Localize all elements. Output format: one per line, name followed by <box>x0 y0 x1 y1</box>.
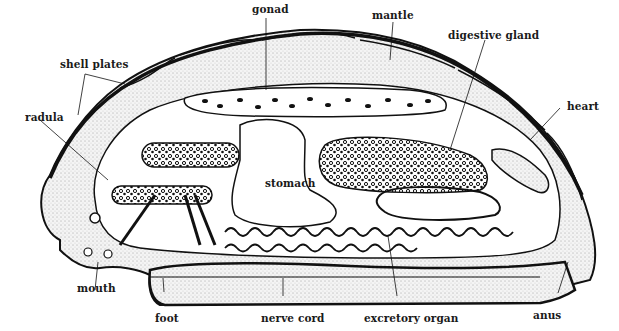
label-excretory-organ: excretory organ <box>364 313 459 324</box>
label-mantle: mantle <box>372 10 414 21</box>
label-mouth: mouth <box>77 283 116 294</box>
chiton-anatomy-diagram: gonad mantle digestive gland shell plate… <box>0 0 619 331</box>
label-stomach: stomach <box>265 178 315 189</box>
label-radula: radula <box>25 112 64 123</box>
label-shell-plates: shell plates <box>60 59 129 70</box>
gonad <box>184 88 446 117</box>
label-gonad: gonad <box>252 4 289 15</box>
label-nerve-cord: nerve cord <box>261 313 325 324</box>
label-heart: heart <box>567 101 599 112</box>
label-digestive-gland: digestive gland <box>448 30 539 41</box>
label-anus: anus <box>533 310 561 321</box>
label-foot: foot <box>155 313 179 324</box>
